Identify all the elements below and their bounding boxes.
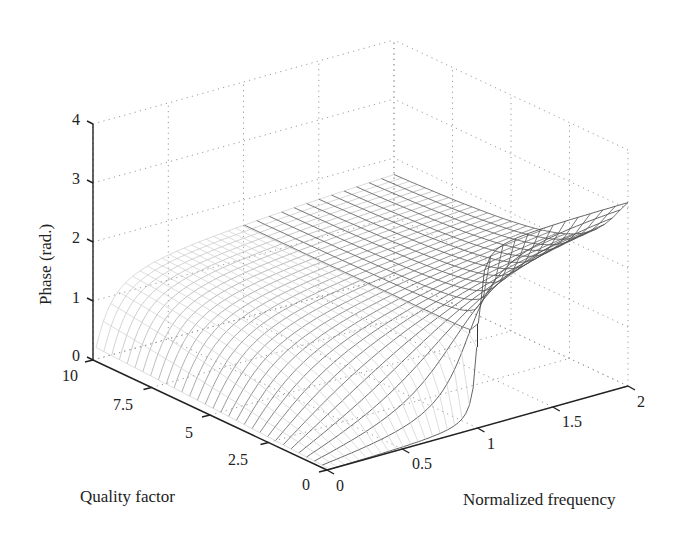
y-tick-10: 10 bbox=[62, 367, 78, 385]
z-tick-3: 3 bbox=[72, 170, 80, 188]
y-tick-0: 0 bbox=[302, 476, 310, 494]
phase-surface bbox=[96, 175, 628, 470]
x-tick-2: 2 bbox=[637, 393, 645, 411]
y-tick-5: 5 bbox=[185, 424, 193, 442]
x-tick-1: 1 bbox=[487, 435, 495, 453]
z-tick-1: 1 bbox=[72, 289, 80, 307]
y-axis-label: Quality factor bbox=[80, 487, 175, 507]
axes bbox=[85, 121, 635, 474]
x-tick-1.5: 1.5 bbox=[562, 413, 582, 431]
z-tick-2: 2 bbox=[72, 229, 80, 247]
x-tick-0.5: 0.5 bbox=[412, 455, 432, 473]
y-tick-2.5: 2.5 bbox=[228, 451, 248, 469]
y-tick-7.5: 7.5 bbox=[113, 396, 133, 414]
z-axis-label: Phase (rad.) bbox=[36, 224, 56, 305]
surface-chart bbox=[0, 0, 699, 538]
z-tick-4: 4 bbox=[72, 111, 80, 129]
grid-lines bbox=[93, 40, 628, 470]
z-tick-0: 0 bbox=[72, 347, 80, 365]
x-tick-0: 0 bbox=[336, 477, 344, 495]
x-axis-label: Normalized frequency bbox=[463, 490, 615, 510]
